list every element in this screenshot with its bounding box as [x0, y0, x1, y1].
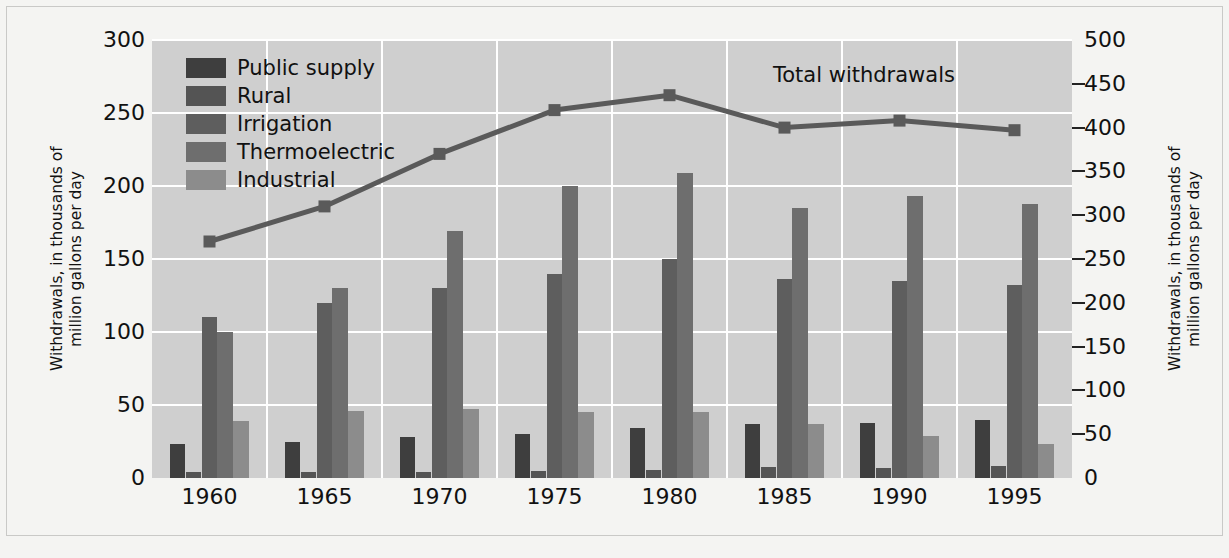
right-tick-mark — [1072, 170, 1085, 172]
legend-item[interactable]: Rural — [186, 82, 395, 110]
legend: Public supplyRuralIrrigationThermoelectr… — [186, 54, 395, 194]
line-marker — [779, 122, 791, 134]
legend-item-label: Thermoelectric — [237, 142, 395, 163]
x-tick-label: 1985 — [757, 484, 813, 509]
left-tick-label: 50 — [117, 394, 145, 416]
right-tick-mark — [1072, 389, 1085, 391]
right-tick-mark — [1072, 302, 1085, 304]
line-marker — [894, 115, 906, 127]
line-marker — [204, 236, 216, 248]
left-tick-label: 100 — [103, 321, 145, 343]
right-tick-label: 400 — [1084, 117, 1126, 139]
right-axis-title: Withdrawals, in thousands of million gal… — [1166, 40, 1205, 478]
chart-figure: Withdrawals, in thousands of million gal… — [0, 0, 1229, 558]
left-tick-label: 150 — [103, 248, 145, 270]
right-tick-mark — [1072, 346, 1085, 348]
legend-item[interactable]: Irrigation — [186, 110, 395, 138]
legend-item[interactable]: Industrial — [186, 166, 395, 194]
legend-swatch-icon — [186, 170, 226, 190]
right-tick-mark — [1072, 83, 1085, 85]
plot-area: Total withdrawals Public supplyRuralIrri… — [152, 40, 1072, 478]
x-tick-label: 1995 — [987, 484, 1043, 509]
right-tick-label: 350 — [1084, 160, 1126, 182]
left-tick-label: 250 — [103, 102, 145, 124]
legend-item-label: Rural — [237, 86, 291, 107]
annotation-total-withdrawals: Total withdrawals — [773, 63, 955, 87]
right-tick-mark — [1072, 258, 1085, 260]
right-tick-mark — [1072, 433, 1085, 435]
legend-item-label: Irrigation — [237, 114, 332, 135]
x-tick-label: 1975 — [527, 484, 583, 509]
legend-swatch-icon — [186, 142, 226, 162]
right-tick-label: 500 — [1084, 29, 1126, 51]
legend-swatch-icon — [186, 114, 226, 134]
legend-item[interactable]: Thermoelectric — [186, 138, 395, 166]
legend-item[interactable]: Public supply — [186, 54, 395, 82]
right-tick-label: 100 — [1084, 379, 1126, 401]
legend-item-label: Industrial — [237, 170, 336, 191]
right-tick-mark — [1072, 127, 1085, 129]
line-marker — [1009, 124, 1021, 136]
left-tick-label: 0 — [131, 467, 145, 489]
right-tick-mark — [1072, 214, 1085, 216]
left-tick-label: 300 — [103, 29, 145, 51]
right-tick-label: 300 — [1084, 204, 1126, 226]
x-tick-label: 1970 — [412, 484, 468, 509]
right-tick-label: 150 — [1084, 336, 1126, 358]
x-tick-label: 1980 — [642, 484, 698, 509]
x-tick-label: 1990 — [872, 484, 928, 509]
x-tick-label: 1965 — [297, 484, 353, 509]
right-tick-label: 200 — [1084, 292, 1126, 314]
legend-swatch-icon — [186, 86, 226, 106]
line-marker — [319, 200, 331, 212]
legend-swatch-icon — [186, 58, 226, 78]
left-axis-title: Withdrawals, in thousands of million gal… — [48, 40, 87, 478]
right-tick-label: 450 — [1084, 73, 1126, 95]
right-tick-label: 50 — [1084, 423, 1112, 445]
right-tick-label: 250 — [1084, 248, 1126, 270]
x-tick-label: 1960 — [182, 484, 238, 509]
line-marker — [434, 148, 446, 160]
left-tick-label: 200 — [103, 175, 145, 197]
legend-item-label: Public supply — [237, 58, 375, 79]
line-marker — [549, 104, 561, 116]
right-tick-label: 0 — [1084, 467, 1098, 489]
line-marker — [664, 89, 676, 101]
